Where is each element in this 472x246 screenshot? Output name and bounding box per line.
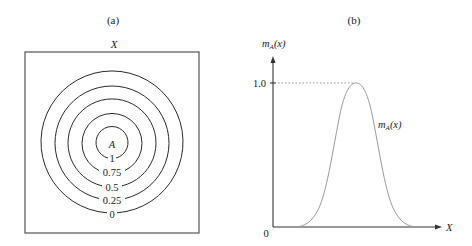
curve-label-arg: (x) bbox=[390, 119, 402, 131]
contour-label-05: 0.5 bbox=[105, 182, 118, 193]
x-axis-label: X bbox=[445, 222, 453, 233]
curve-label: mA(x) bbox=[378, 119, 402, 132]
y-axis-label-arg: (x) bbox=[274, 38, 286, 50]
y-tick-label-1: 1.0 bbox=[253, 78, 266, 89]
origin-label: 0 bbox=[263, 228, 268, 239]
fuzzy-set-figure: (a) X A 1 0.75 0.5 0.25 0 (b) mA(x) bbox=[0, 0, 472, 246]
axes bbox=[270, 62, 436, 227]
panel-b-label: (b) bbox=[348, 14, 361, 27]
panel-a: (a) X A 1 0.75 0.5 0.25 0 bbox=[25, 14, 199, 233]
contour-label-075: 0.75 bbox=[103, 167, 121, 178]
set-label: A bbox=[108, 139, 116, 150]
y-axis-label: mA(x) bbox=[262, 38, 286, 51]
contour-label-0: 0 bbox=[109, 209, 114, 220]
panel-a-label: (a) bbox=[107, 14, 120, 27]
y-axis-arrow-icon bbox=[271, 56, 276, 63]
contour-label-025: 0.25 bbox=[103, 195, 121, 206]
panel-b: (b) mA(x) 1.0 0 X mA(x) bbox=[253, 14, 453, 239]
universe-label: X bbox=[110, 38, 119, 50]
contour-label-1: 1 bbox=[109, 153, 114, 164]
x-axis-arrow-icon bbox=[435, 225, 442, 230]
membership-curve bbox=[292, 83, 420, 227]
